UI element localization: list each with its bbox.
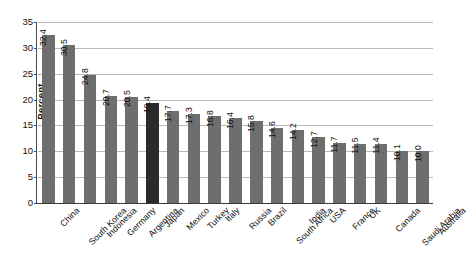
bar-value-label: 11.5 [352,137,361,153]
bar-value-label: 16.4 [227,112,236,129]
bar: 20.5 [125,97,137,203]
x-tick-label: Canada [394,206,422,234]
bar-value-label: 16.8 [206,110,215,127]
y-tick-label: 10 [22,147,33,157]
bar: 11.4 [375,144,387,203]
bar-value-label: 20.5 [123,91,132,108]
y-tick-label: 25 [22,69,33,79]
bar-value-label: 15.8 [248,115,257,132]
y-tick-label: 30 [22,43,33,53]
bar: 19.4 [146,103,158,203]
bar-value-label: 20.7 [102,90,111,107]
x-axis-labels: ChinaSouth KoreaIndonesiaGermanyArgentin… [38,206,438,275]
gridline [38,22,433,23]
bar: 32.4 [42,35,54,203]
y-tick-label: 5 [28,172,33,182]
bar: 14.2 [292,130,304,203]
bar-value-label: 11.4 [372,138,381,154]
bar: 16.8 [208,116,220,203]
x-tick-label: Mexico [185,206,211,232]
y-tick-label: 15 [22,121,33,131]
bar: 14.6 [271,128,283,204]
bar-value-label: 17.7 [165,105,174,122]
plot-area: 05101520253035 32.430.524.820.720.519.41… [38,22,433,203]
bar-value-label: 12.7 [310,131,319,148]
bar-value-label: 30.5 [61,39,70,56]
gridline [38,74,433,75]
gridline [38,100,433,101]
y-tick-label: 35 [22,17,33,27]
bar: 16.4 [229,118,241,203]
bar: 15.8 [250,121,262,203]
bar: 17.7 [167,111,179,203]
bar: 11.5 [354,144,366,203]
gridline [38,48,433,49]
bar: 10.0 [416,151,428,203]
y-tick-label: 0 [28,198,33,208]
bar-value-label: 10.1 [393,144,402,161]
x-tick-label: China [59,206,81,228]
bar-value-label: 24.8 [81,68,90,85]
bar: 24.8 [84,75,96,203]
bar-value-label: 11.7 [331,136,340,152]
bar: 17.3 [188,114,200,203]
bar: 20.7 [105,96,117,203]
y-axis-line [36,22,37,204]
bar: 10.1 [396,151,408,203]
bar: 11.7 [333,143,345,204]
bar-value-label: 10.0 [414,145,423,162]
x-axis-line [36,203,433,204]
bar-value-label: 14.2 [289,123,298,140]
y-tick-label: 20 [22,95,33,105]
bar-value-label: 14.6 [268,121,277,138]
bar-value-label: 32.4 [40,29,49,46]
bar-value-label: 17.3 [185,107,194,124]
bar: 12.7 [312,137,324,203]
bar: 30.5 [63,45,75,203]
bar-value-label: 19.4 [144,96,153,113]
